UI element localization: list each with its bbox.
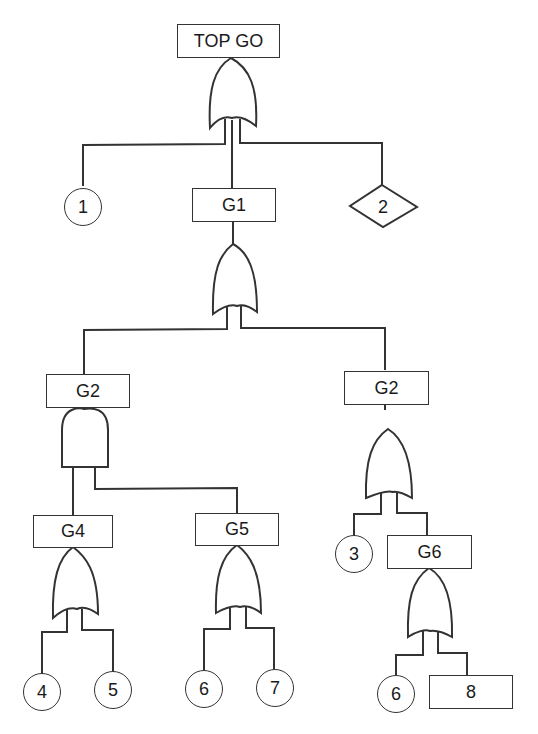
basic-event-6-left: 6 [185, 670, 223, 708]
gate-g1-box: G1 [192, 188, 276, 222]
gate-g2-left-box: G2 [46, 374, 130, 408]
or-gate-g5 [216, 545, 261, 613]
or-gate-g2-right [366, 429, 412, 498]
basic-event-5: 5 [94, 671, 132, 709]
gate-g6-box: G6 [387, 535, 472, 569]
fault-tree-wires [0, 0, 538, 734]
gate-g5-box: G5 [195, 513, 279, 546]
basic-event-7: 7 [256, 669, 294, 707]
basic-event-1: 1 [64, 188, 102, 226]
basic-event-6-right: 6 [377, 675, 415, 713]
basic-event-4: 4 [23, 673, 61, 711]
gate-g2-right-box: G2 [344, 371, 429, 405]
gate-g4-box: G4 [33, 515, 113, 548]
or-gate-top [210, 58, 257, 128]
or-gate-g6 [408, 568, 452, 637]
and-gate-g2 [62, 408, 108, 467]
top-event-label: TOP GO [194, 31, 263, 52]
undeveloped-event-2: 2 [362, 193, 404, 221]
event-8-box: 8 [429, 675, 513, 709]
or-gate-g1 [213, 244, 257, 314]
top-event-box: TOP GO [177, 24, 280, 58]
or-gate-g4 [53, 547, 98, 618]
basic-event-3: 3 [335, 535, 373, 573]
